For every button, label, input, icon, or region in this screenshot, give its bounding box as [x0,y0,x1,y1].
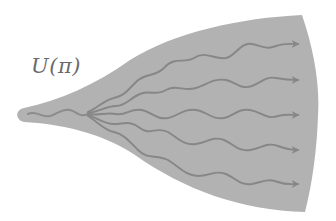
unitary-fanout-diagram: U(π) [0,0,336,221]
horn-shape [17,15,318,212]
operator-label: U(π) [31,54,81,78]
diagram-canvas [0,0,336,221]
